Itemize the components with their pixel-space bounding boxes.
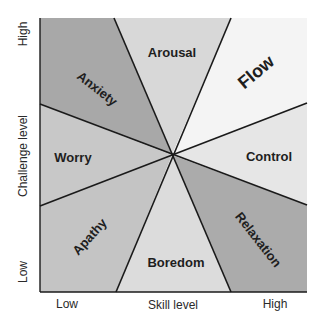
y-axis-title: Challenge level (16, 115, 30, 197)
flow-diagram: Anxiety Arousal Flow Control Relaxation … (0, 0, 324, 326)
label-control: Control (246, 149, 292, 164)
label-arousal: Arousal (148, 45, 196, 60)
x-axis-low: Low (56, 297, 78, 311)
x-axis-title: Skill level (148, 298, 198, 312)
x-axis-high: High (263, 297, 288, 311)
label-boredom: Boredom (147, 255, 204, 270)
label-worry: Worry (54, 150, 92, 165)
y-axis-high: High (16, 22, 30, 47)
y-axis-low: Low (16, 261, 30, 283)
